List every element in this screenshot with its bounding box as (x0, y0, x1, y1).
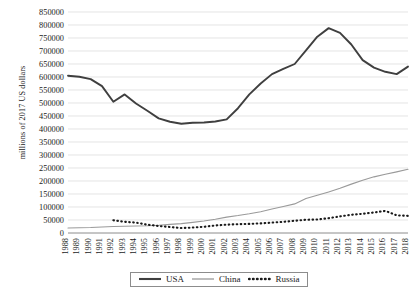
x-tick-label: 1990 (84, 238, 93, 255)
y-tick-label: 350000 (39, 138, 64, 147)
x-tick-label: 2010 (310, 238, 319, 255)
y-tick-label: 850000 (39, 8, 64, 17)
x-tick-label: 2014 (356, 237, 365, 254)
y-axis-title: millions of 2017 US dollars (18, 33, 27, 193)
y-tick-label: 0 (60, 229, 64, 238)
x-tick-label: 2003 (231, 238, 240, 255)
y-tick-label: 700000 (39, 47, 64, 56)
x-tick-label: 2012 (333, 238, 342, 255)
x-tick-label: 2006 (265, 238, 274, 255)
y-axis-tick-labels: 0500001000001500002000002500003000003500… (39, 8, 64, 238)
x-tick-label: 2018 (401, 238, 410, 255)
x-tick-label: 2017 (390, 238, 399, 255)
x-tick-label: 2002 (220, 238, 229, 255)
y-tick-label: 200000 (39, 177, 64, 186)
x-tick-label: 1993 (118, 238, 127, 255)
x-axis-tick-labels: 1988198919901991199219931994199519961997… (61, 237, 410, 254)
legend-item-russia: Russia (248, 274, 300, 284)
x-tick-label: 2016 (378, 238, 387, 255)
x-tick-label: 2004 (242, 237, 251, 254)
y-tick-label: 550000 (39, 86, 64, 95)
y-tick-label: 400000 (39, 125, 64, 134)
series-line-russia (113, 211, 408, 228)
gridlines (68, 12, 408, 233)
x-tick-label: 1989 (72, 238, 81, 255)
data-series-group (68, 28, 408, 228)
legend-label-china: China (219, 274, 241, 284)
y-tick-label: 250000 (39, 164, 64, 173)
y-tick-label: 800000 (39, 21, 64, 30)
x-tick-label: 2008 (288, 238, 297, 255)
x-tick-label: 2001 (208, 238, 217, 255)
x-tick-label: 1994 (129, 237, 138, 254)
series-line-usa (68, 28, 408, 124)
y-tick-label: 600000 (39, 73, 64, 82)
y-tick-label: 500000 (39, 99, 64, 108)
x-tick-label: 1988 (61, 238, 70, 255)
y-tick-label: 650000 (39, 60, 64, 69)
legend-swatch-china (191, 275, 215, 283)
x-tick-label: 1998 (174, 238, 183, 255)
x-tick-label: 2013 (344, 238, 353, 255)
y-tick-label: 450000 (39, 112, 64, 121)
legend-swatch-russia (248, 275, 272, 283)
line-chart: millions of 2017 US dollars 050000100000… (0, 0, 413, 302)
chart-canvas: 0500001000001500002000002500003000003500… (0, 0, 413, 302)
x-tick-label: 2000 (197, 238, 206, 255)
x-tick-label: 2009 (299, 238, 308, 255)
legend-label-usa: USA (166, 274, 184, 284)
y-tick-label: 150000 (39, 190, 64, 199)
legend-swatch-usa (138, 275, 162, 283)
x-tick-label: 2007 (276, 238, 285, 255)
y-tick-label: 50000 (43, 216, 64, 225)
x-tick-label: 1995 (140, 238, 149, 255)
legend-item-usa: USA (138, 274, 184, 284)
x-tick-label: 1992 (106, 238, 115, 255)
x-tick-label: 1997 (163, 238, 172, 255)
x-tick-label: 2005 (254, 238, 263, 255)
legend-item-china: China (191, 274, 241, 284)
y-tick-label: 300000 (39, 151, 64, 160)
y-tick-label: 100000 (39, 203, 64, 212)
x-tick-label: 1999 (186, 238, 195, 255)
chart-legend: USA China Russia (130, 272, 308, 287)
x-tick-label: 2011 (322, 238, 331, 254)
legend-label-russia: Russia (276, 274, 300, 284)
series-line-china (68, 169, 408, 228)
x-tick-label: 1991 (95, 238, 104, 255)
x-tick-label: 2015 (367, 238, 376, 255)
x-tick-label: 1996 (152, 238, 161, 255)
y-tick-label: 750000 (39, 34, 64, 43)
